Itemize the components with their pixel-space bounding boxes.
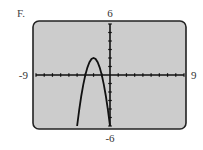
panel-label: F.: [17, 7, 25, 19]
label-ymin: -6: [105, 132, 115, 144]
label-xmin: -9: [19, 69, 29, 81]
label-xmax: 9: [191, 69, 197, 81]
graphing-calculator-figure: F. 6 -6 -9 9: [0, 0, 203, 150]
label-ymax: 6: [107, 7, 113, 19]
